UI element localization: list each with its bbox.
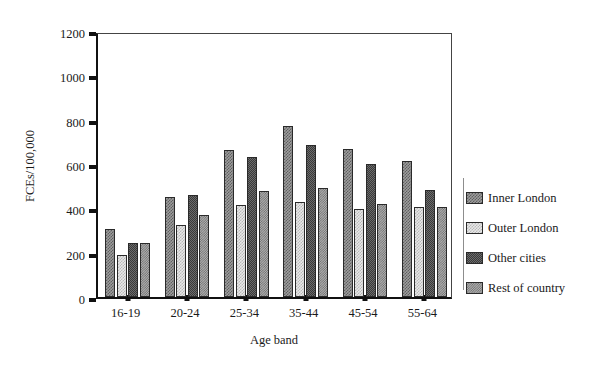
legend-swatch-icon — [466, 192, 483, 204]
legend-divider — [463, 178, 464, 290]
legend-item-label: Other cities — [488, 252, 546, 265]
legend-item-label: Outer London — [488, 222, 558, 235]
legend-item-label: Inner London — [488, 192, 556, 205]
legend-item[interactable]: Inner London — [466, 183, 601, 213]
bar-chart-figure: FCEs/100,000 020040060080010001200 16-19… — [0, 0, 607, 368]
bar — [377, 204, 387, 297]
y-axis-tick — [89, 209, 96, 213]
x-axis-title: Age band — [250, 333, 298, 348]
y-axis-tick — [89, 254, 96, 258]
legend-item[interactable]: Rest of country — [466, 273, 601, 303]
y-axis-tick — [89, 121, 96, 125]
legend-item[interactable]: Other cities — [466, 243, 601, 273]
y-axis-title: FCEs/100,000 — [23, 130, 38, 202]
y-axis-tick — [89, 76, 96, 80]
x-axis-tick-label: 16-19 — [111, 306, 140, 321]
y-axis-tick-label: 0 — [79, 294, 85, 307]
bar — [165, 197, 175, 297]
bar — [354, 209, 364, 297]
bar — [343, 149, 353, 297]
legend-swatch-icon — [466, 252, 483, 264]
bar — [414, 207, 424, 297]
bar — [199, 215, 209, 297]
bar — [176, 225, 186, 297]
bar — [236, 205, 246, 297]
x-axis-tick-label: 45-54 — [348, 306, 377, 321]
bar — [105, 229, 115, 297]
x-axis-tick-label: 25-34 — [230, 306, 259, 321]
bar — [306, 145, 316, 297]
y-axis-tick — [89, 32, 96, 36]
plot-area: 020040060080010001200 — [96, 33, 452, 299]
y-axis-tick — [89, 165, 96, 169]
bar — [318, 188, 328, 297]
bar — [366, 164, 376, 297]
y-axis-tick-label: 1000 — [60, 72, 85, 85]
x-axis-tick-label: 20-24 — [170, 306, 199, 321]
bar — [402, 161, 412, 297]
y-axis-tick-label: 400 — [66, 205, 85, 218]
bar — [259, 191, 269, 297]
legend-swatch-icon — [466, 282, 483, 294]
chart-legend: Inner LondonOuter LondonOther citiesRest… — [466, 183, 601, 303]
bar — [224, 150, 234, 297]
bar — [140, 243, 150, 297]
bar — [283, 126, 293, 297]
bar — [117, 255, 127, 297]
bar — [128, 243, 138, 297]
y-axis-tick-label: 600 — [66, 161, 85, 174]
bar — [437, 207, 447, 297]
bar — [425, 190, 435, 298]
y-axis-tick-label: 1200 — [60, 28, 85, 41]
y-axis-tick — [89, 298, 96, 302]
x-axis-tick-label: 35-44 — [289, 306, 318, 321]
bar — [295, 202, 305, 297]
bar — [247, 157, 257, 297]
x-axis-tick-label: 55-64 — [408, 306, 437, 321]
bar — [188, 195, 198, 297]
y-axis-tick-label: 800 — [66, 116, 85, 129]
y-axis-tick-label: 200 — [66, 249, 85, 262]
legend-item[interactable]: Outer London — [466, 213, 601, 243]
legend-item-label: Rest of country — [488, 282, 565, 295]
legend-swatch-icon — [466, 222, 483, 234]
